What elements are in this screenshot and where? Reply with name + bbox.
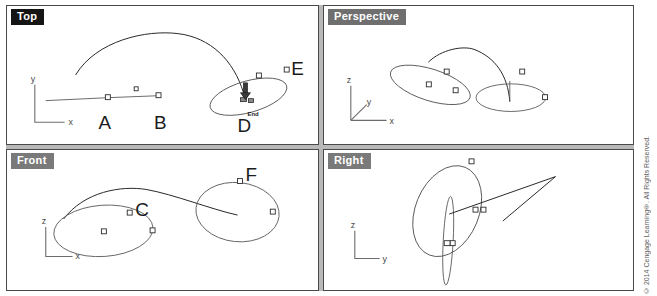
grip-point[interactable] [238, 179, 243, 184]
grip-point[interactable] [426, 82, 431, 87]
ellipse-right-view [400, 155, 495, 266]
osnap-tooltip-end: End [247, 111, 259, 117]
arc-curve-front [64, 188, 238, 219]
viewport-front[interactable]: Front z x [6, 149, 319, 291]
grip-point[interactable] [543, 95, 548, 100]
grip-point[interactable] [450, 241, 455, 246]
grip-point[interactable] [134, 87, 138, 91]
axis-label-y: y [383, 254, 388, 264]
axis-label-y: y [367, 97, 372, 107]
arc-curve-perspective [428, 48, 509, 102]
axis-label-x: x [390, 116, 395, 126]
point-label-c: C [135, 199, 149, 220]
grip-point[interactable] [101, 229, 106, 234]
osnap-cursor-icon [240, 83, 250, 100]
viewport-label-perspective[interactable]: Perspective [328, 9, 406, 25]
point-label-b: B [154, 112, 167, 133]
axis-label-x: x [76, 251, 81, 261]
grip-point[interactable] [256, 73, 261, 78]
axis-label-z: z [42, 216, 46, 226]
axis-label-y: y [31, 74, 36, 84]
ellipse-right-front [193, 178, 282, 245]
point-label-e: E [291, 58, 304, 79]
grip-point[interactable] [150, 228, 155, 233]
viewport-front-canvas[interactable]: z x C F [7, 150, 318, 290]
viewport-label-right[interactable]: Right [328, 153, 371, 169]
grip-point[interactable] [127, 210, 132, 215]
grip-point[interactable] [270, 209, 275, 214]
arc-curve-top [76, 33, 244, 93]
viewport-perspective-canvas[interactable]: z y x [324, 6, 633, 144]
screenshot-root: Top [0, 0, 657, 296]
axis-tripod-front: z x [42, 216, 81, 261]
grip-point[interactable] [444, 69, 449, 74]
line-upper-right [449, 177, 555, 214]
axis-label-z: z [351, 220, 355, 230]
viewport-right-canvas[interactable]: z y [324, 150, 633, 290]
axis-tripod-right: z y [351, 220, 388, 264]
axis-label-x: x [69, 117, 74, 127]
viewport-label-front[interactable]: Front [11, 153, 54, 169]
grip-point[interactable] [105, 95, 110, 100]
viewport-perspective[interactable]: Perspective [323, 5, 634, 145]
viewport-label-top[interactable]: Top [11, 9, 44, 25]
grip-point-selected[interactable] [248, 99, 253, 103]
grip-point[interactable] [444, 241, 450, 246]
grip-point[interactable] [469, 159, 474, 164]
point-label-a: A [98, 112, 111, 133]
grip-point[interactable] [156, 93, 161, 98]
grip-point[interactable] [481, 207, 486, 212]
copyright-notice: © 2014 Cengage Learning®. All Rights Res… [642, 144, 656, 294]
grip-point[interactable] [473, 207, 478, 212]
grip-point[interactable] [284, 67, 289, 72]
viewport-right[interactable]: Right z y [323, 149, 634, 291]
line-ab-top [46, 96, 159, 101]
grip-point[interactable] [453, 88, 458, 93]
point-label-d: D [238, 115, 252, 136]
axis-label-z: z [347, 75, 351, 85]
grip-point[interactable] [520, 69, 525, 74]
point-label-f: F [245, 164, 257, 185]
line-lower-right [503, 177, 556, 221]
axis-tripod-perspective: z y x [347, 75, 395, 126]
viewport-top-canvas[interactable]: y x A B D E End [7, 6, 318, 144]
viewport-grid: Top [6, 5, 634, 291]
ellipse-right-perspective [476, 84, 546, 112]
viewport-top[interactable]: Top [6, 5, 319, 145]
